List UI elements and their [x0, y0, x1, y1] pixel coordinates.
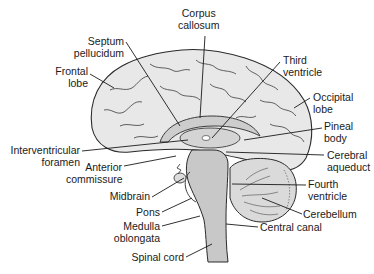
label-line: Anterior — [66, 162, 122, 174]
label-line: pellucidum — [70, 48, 124, 60]
label-line: Septum — [70, 36, 124, 48]
label-line: oblongata — [110, 233, 160, 245]
label-pineal-body: Pineal body — [324, 121, 353, 144]
label-line: ventricle — [283, 67, 322, 79]
label-line: Midbrain — [100, 191, 150, 203]
label-line: Medulla — [110, 221, 160, 233]
label-cerebellum: Cerebellum — [303, 209, 357, 221]
label-anterior-commissure: Anterior commissure — [66, 162, 122, 185]
label-line: aqueduct — [327, 162, 370, 174]
label-line: Corpus — [178, 8, 219, 20]
label-line: Fourth — [308, 179, 347, 191]
mammillary-shape — [174, 173, 186, 183]
label-line: Third — [283, 55, 322, 67]
label-line: Cerebellum — [303, 209, 357, 221]
label-medulla-oblongata: Medulla oblongata — [110, 221, 160, 244]
label-line: Spinal cord — [120, 252, 184, 264]
label-line: Cerebral — [327, 150, 370, 162]
label-line: body — [324, 133, 353, 145]
label-septum-pellucidum: Septum pellucidum — [70, 36, 124, 59]
label-line: Central canal — [260, 222, 322, 234]
label-pons: Pons — [120, 207, 160, 219]
label-line: ventricle — [308, 191, 347, 203]
label-frontal-lobe: Frontal lobe — [48, 66, 88, 89]
label-corpus-callosum: Corpus callosum — [178, 8, 219, 31]
cerebellum-shape — [230, 158, 296, 222]
label-central-canal: Central canal — [260, 222, 322, 234]
label-fourth-ventricle: Fourth ventricle — [308, 179, 347, 202]
label-line: lobe — [313, 104, 353, 116]
label-occipital-lobe: Occipital lobe — [313, 92, 353, 115]
brainstem-shape — [186, 150, 228, 262]
label-third-ventricle: Third ventricle — [283, 55, 322, 78]
label-line: lobe — [48, 78, 88, 90]
label-cerebral-aqueduct: Cerebral aqueduct — [327, 150, 370, 173]
label-line: callosum — [178, 20, 219, 32]
label-line: Pineal — [324, 121, 353, 133]
label-line: Occipital — [313, 92, 353, 104]
label-spinal-cord: Spinal cord — [120, 252, 184, 264]
label-midbrain: Midbrain — [100, 191, 150, 203]
label-line: Interventricular — [4, 145, 80, 157]
label-line: commissure — [66, 174, 122, 186]
label-line: Frontal — [48, 66, 88, 78]
label-line: Pons — [120, 207, 160, 219]
brain-diagram: Corpus callosum Septum pellucidum Fronta… — [0, 0, 374, 274]
